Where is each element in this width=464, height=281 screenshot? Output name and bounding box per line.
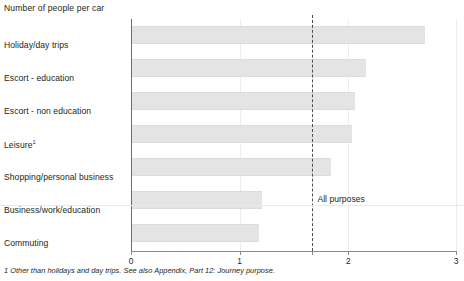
category-label-text: Holiday/day trips: [4, 40, 68, 50]
plot-area: 0 1 2 3: [131, 19, 457, 251]
x-tick-label-2: 2: [346, 256, 351, 266]
chart-footnote: 1 Other than holidays and day trips. See…: [4, 266, 275, 275]
chart-title: Number of people per car: [4, 3, 104, 13]
tick-mark-0: [131, 251, 132, 255]
x-tick-label-0: 0: [129, 256, 134, 266]
x-tick-label-1: 1: [237, 256, 242, 266]
chart-container: Number of people per car 0 1 2 3 All pur…: [0, 0, 464, 281]
category-label-commuting: Commuting: [4, 238, 48, 248]
category-label-leisure: Leisure1: [4, 139, 36, 150]
bar-leisure: [132, 125, 352, 143]
all-purposes-label: All purposes: [317, 194, 364, 204]
gridline-3: [456, 19, 457, 251]
tick-mark-1: [240, 251, 241, 255]
bar-shopping-personal-business: [132, 158, 331, 176]
category-label-text: Business/work/education: [4, 205, 100, 215]
category-label-text: Escort - non education: [4, 106, 91, 116]
tick-mark-ref: [312, 251, 313, 255]
x-tick-label-3: 3: [454, 256, 459, 266]
tick-mark-3: [456, 251, 457, 255]
bar-escort-education: [132, 59, 366, 77]
category-label-escort-non-education: Escort - non education: [4, 106, 91, 116]
footnote-marker: 1: [33, 139, 36, 145]
scan-artifact-line: [0, 205, 464, 206]
bar-business-work-education: [132, 191, 262, 209]
category-label-holiday-day-trips: Holiday/day trips: [4, 40, 68, 50]
category-label-text: Commuting: [4, 238, 48, 248]
category-label-escort-education: Escort - education: [4, 73, 74, 83]
category-label-business-work-education: Business/work/education: [4, 205, 100, 215]
bar-escort-non-education: [132, 92, 355, 110]
category-label-text: Leisure: [4, 140, 33, 150]
all-purposes-reference-line: [312, 15, 313, 251]
category-label-text: Escort - education: [4, 73, 74, 83]
category-label-shopping-personal-business: Shopping/personal business: [4, 172, 113, 182]
bar-commuting: [132, 224, 259, 242]
x-axis-line: [131, 251, 457, 252]
bar-holiday-day-trips: [132, 26, 425, 44]
category-label-text: Shopping/personal business: [4, 172, 113, 182]
tick-mark-2: [348, 251, 349, 255]
